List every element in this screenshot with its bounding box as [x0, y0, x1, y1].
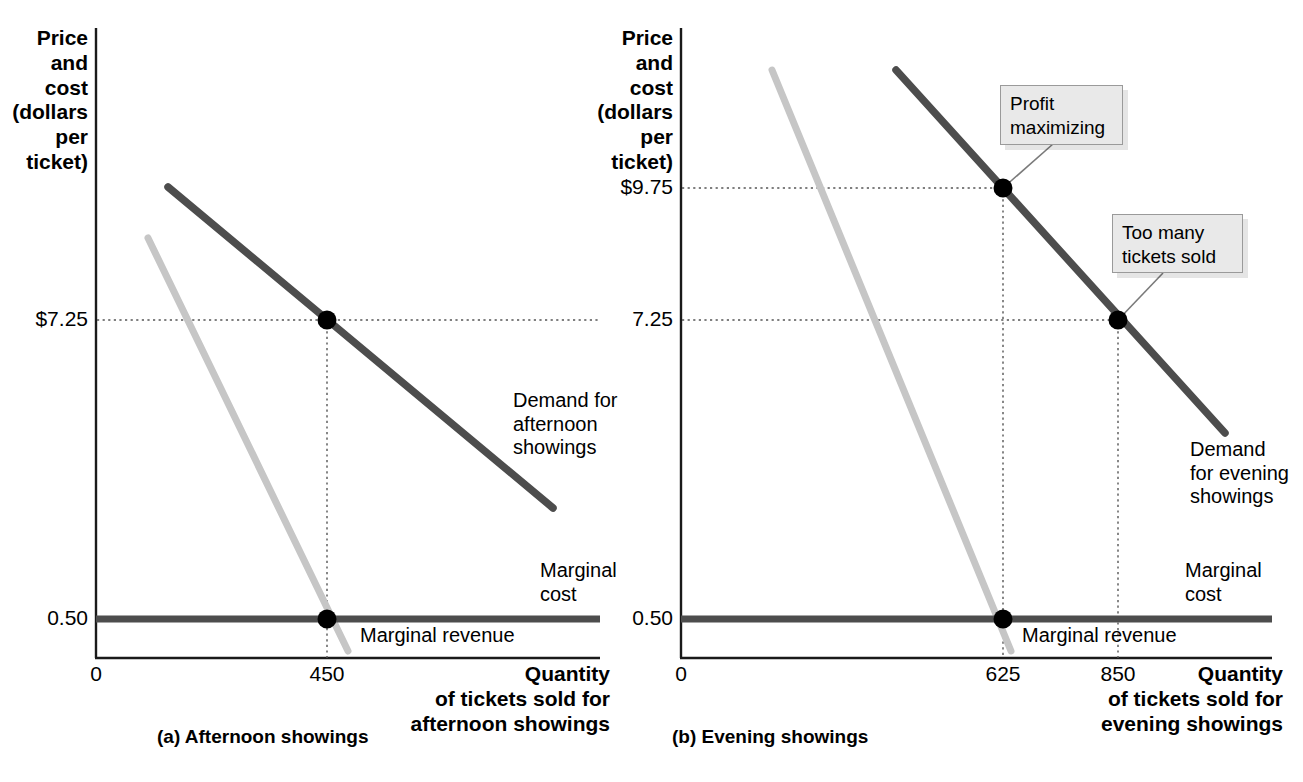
panel-a-y-axis-title: Price and cost (dollars per ticket) — [0, 26, 88, 175]
panel-b-mr-mc-dot — [994, 610, 1013, 629]
panel-b-too-many-dot — [1109, 311, 1128, 330]
callout-too-many-tickets: Too many tickets sold — [1112, 214, 1243, 273]
panel-a-marginal-revenue-label: Marginal revenue — [360, 624, 610, 648]
panel-b-y-tick-725: 7.25 — [585, 307, 673, 332]
panel-b-too-many-leader-line — [1118, 273, 1163, 320]
panel-b-y-axis-title: Price and cost (dollars per ticket) — [585, 26, 673, 175]
panel-b-y-tick-050: 0.50 — [585, 606, 673, 631]
panel-a-profit-max-dot — [318, 311, 337, 330]
panel-b-caption: (b) Evening showings — [672, 726, 992, 748]
economics-figure: Price and cost (dollars per ticket) $7.2… — [0, 0, 1303, 782]
callout-profit-maximizing: Profit maximizing — [1000, 85, 1123, 145]
panel-a-demand-label: Demand for afternoon showings — [513, 389, 663, 460]
panel-b-marginal-revenue-label: Marginal revenue — [1022, 624, 1272, 648]
panel-b-demand-label: Demand for evening showings — [1190, 438, 1303, 509]
panel-b-profit-max-dot — [994, 179, 1013, 198]
panel-a-caption: (a) Afternoon showings — [157, 726, 477, 748]
panel-b-marginal-cost-label: Marginal cost — [1185, 559, 1303, 606]
panel-a-mr-mc-dot — [318, 610, 337, 629]
panel-a-x-tick-0: 0 — [76, 662, 116, 687]
panel-b-x-axis-title: Quantity of tickets sold for evening sho… — [1000, 662, 1283, 736]
panel-a-y-tick-050: 0.50 — [0, 606, 88, 631]
panel-a-demand-curve — [168, 187, 553, 508]
panel-a-y-tick-725: $7.25 — [0, 307, 88, 332]
panel-b-profit-max-leader-line — [1003, 144, 1053, 188]
panel-a-marginal-cost-label: Marginal cost — [540, 559, 660, 606]
panel-b-y-tick-975: $9.75 — [585, 175, 673, 200]
panel-a-marginal-revenue-curve — [148, 238, 348, 651]
panel-b-x-tick-0: 0 — [661, 662, 701, 687]
